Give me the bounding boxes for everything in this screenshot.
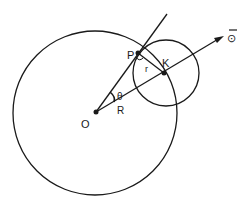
geometry-diagram: O P K r R θ ⊙ — [0, 0, 251, 207]
point-p — [136, 51, 141, 56]
angle-arc — [110, 92, 115, 102]
label-r-large: R — [117, 105, 124, 116]
label-p: P — [127, 49, 134, 61]
line-o-p — [96, 14, 167, 112]
label-direction: ⊙ — [227, 32, 236, 44]
label-o: O — [81, 118, 90, 130]
point-o — [94, 110, 99, 115]
label-k: K — [162, 57, 170, 69]
arrowhead-icon — [214, 36, 224, 43]
label-theta: θ — [117, 91, 123, 102]
point-k — [162, 71, 167, 76]
label-r-small: r — [145, 64, 148, 74]
